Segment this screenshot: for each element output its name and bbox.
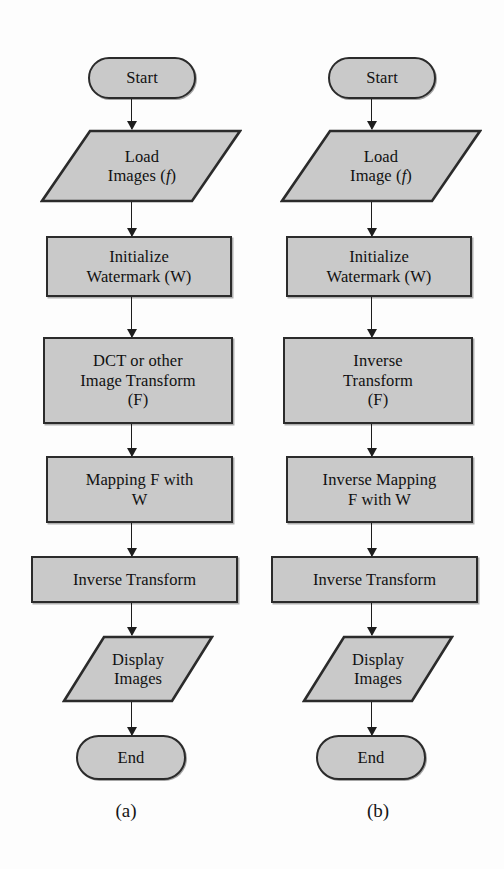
connector-a2-a3: [131, 201, 132, 236]
node-label: Display Images: [346, 650, 410, 689]
connector-b7-b8: [371, 700, 372, 735]
node-b-display-images[interactable]: Display Images: [302, 635, 454, 703]
node-b-end[interactable]: End: [316, 735, 426, 780]
connector-b1-b2: [371, 99, 372, 129]
node-b-inverse-transform-f[interactable]: Inverse Transform (F): [283, 337, 473, 424]
connector-b5-b6: [371, 523, 372, 556]
node-label: Load Images (f): [102, 147, 182, 186]
connector-a4-a5: [131, 424, 132, 456]
connector-b2-b3: [371, 201, 372, 236]
node-label: Inverse Transform: [67, 570, 202, 589]
caption-a: (a): [0, 800, 252, 822]
node-a-start[interactable]: Start: [88, 57, 196, 99]
node-a-load-images[interactable]: Load Images (f): [40, 129, 242, 203]
flowchart-figure: Start Load Images (f) Initialize Waterma…: [0, 0, 504, 869]
node-b-initialize-watermark[interactable]: Initialize Watermark (W): [286, 236, 472, 297]
node-label: Inverse Mapping F with W: [317, 470, 443, 509]
node-label: Mapping F with W: [80, 470, 200, 509]
node-a-dct-transform[interactable]: DCT or other Image Transform (F): [43, 337, 233, 424]
node-label: DCT or other Image Transform (F): [74, 351, 202, 409]
node-label: End: [352, 748, 391, 767]
node-a-inverse-transform[interactable]: Inverse Transform: [31, 556, 238, 603]
connector-a6-a7: [131, 603, 132, 635]
node-b-inverse-mapping-f-with-w[interactable]: Inverse Mapping F with W: [286, 456, 473, 523]
connector-a7-a8: [131, 700, 132, 735]
node-b-start[interactable]: Start: [328, 57, 436, 99]
node-a-display-images[interactable]: Display Images: [62, 635, 214, 703]
node-label: Start: [120, 68, 164, 87]
flowchart-column-b: Start Load Image (f) Initialize Watermar…: [252, 0, 504, 869]
node-a-end[interactable]: End: [76, 735, 186, 780]
caption-b: (b): [252, 800, 504, 822]
node-b-inverse-transform[interactable]: Inverse Transform: [271, 556, 478, 603]
connector-a3-a4: [131, 297, 132, 337]
node-a-initialize-watermark[interactable]: Initialize Watermark (W): [46, 236, 232, 297]
connector-a1-a2: [131, 99, 132, 129]
connector-b4-b5: [371, 424, 372, 456]
connector-a5-a6: [131, 523, 132, 556]
node-label: Inverse Transform: [307, 570, 442, 589]
connector-b3-b4: [371, 297, 372, 337]
node-a-mapping-f-with-w[interactable]: Mapping F with W: [46, 456, 233, 523]
connector-b6-b7: [371, 603, 372, 635]
node-label: Start: [360, 68, 404, 87]
node-label: Display Images: [106, 650, 170, 689]
node-label: Load Image (f): [344, 147, 418, 186]
node-label: Inverse Transform (F): [337, 351, 419, 409]
node-label: Initialize Watermark (W): [81, 247, 198, 286]
node-label: Initialize Watermark (W): [321, 247, 438, 286]
node-b-load-image[interactable]: Load Image (f): [280, 129, 482, 203]
node-label: End: [112, 748, 151, 767]
flowchart-column-a: Start Load Images (f) Initialize Waterma…: [0, 0, 252, 869]
